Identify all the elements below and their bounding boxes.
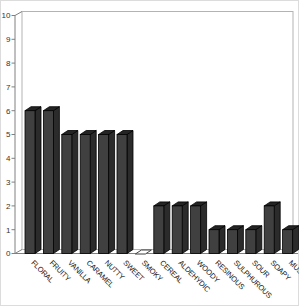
y-axis-depth-top-edge (15, 12, 22, 16)
y-tick-label: 6 (6, 107, 11, 116)
bar-front-face (43, 111, 53, 254)
bar-cereal (154, 202, 170, 254)
bar-side-face (256, 226, 262, 254)
bar-caramel (80, 131, 96, 254)
bar-soapy (264, 202, 280, 254)
bar-front-face (25, 111, 35, 254)
bar-side-face (164, 202, 170, 254)
bar-woody (191, 202, 207, 254)
bar-fruity (43, 107, 59, 254)
bar-sulphurous (227, 226, 243, 254)
bar-aldehydic (172, 202, 188, 254)
bar-side-face (219, 226, 225, 254)
y-axis-depth-bottom-edge (15, 250, 22, 254)
bar-musty (283, 226, 299, 254)
bar-side-face (127, 131, 133, 254)
bar-side-face (90, 131, 96, 254)
bar-sweet (117, 131, 133, 254)
bar-side-face (35, 107, 41, 254)
chart-frame: 012345678910FLORALFRUITYVANILLACARAMELNU… (0, 0, 299, 306)
bar-side-face (237, 226, 243, 254)
bar-front-face (227, 230, 237, 254)
bar-nutty (99, 131, 115, 254)
bar-front-face (154, 206, 164, 254)
bar-front-face (80, 135, 90, 254)
bar-sour (246, 226, 262, 254)
bar-resinous (209, 226, 225, 254)
y-tick-label: 5 (6, 130, 11, 139)
y-tick-label: 2 (6, 202, 11, 211)
bar-side-face (201, 202, 207, 254)
bar-side-face (274, 202, 280, 254)
y-tick-label: 8 (6, 59, 11, 68)
bar-front-face (117, 135, 127, 254)
y-tick-label: 4 (6, 154, 11, 163)
bar-front-face (62, 135, 72, 254)
bar-front-face (172, 206, 182, 254)
bar-front-face (209, 230, 219, 254)
odor-profile-3d-bar-chart: 012345678910FLORALFRUITYVANILLACARAMELNU… (1, 1, 299, 306)
bar-side-face (182, 202, 188, 254)
bar-vanilla (62, 131, 78, 254)
bar-side-face (109, 131, 115, 254)
y-tick-label: 1 (6, 226, 11, 235)
bar-front-face (191, 206, 201, 254)
bar-side-face (72, 131, 78, 254)
bar-side-face (293, 226, 299, 254)
y-tick-label: 9 (6, 35, 11, 44)
y-tick-label: 0 (6, 249, 11, 258)
bar-floral (25, 107, 41, 254)
bar-front-face (264, 206, 274, 254)
bar-front-face (99, 135, 109, 254)
bar-front-face (246, 230, 256, 254)
y-tick-label: 7 (6, 83, 11, 92)
bar-side-face (53, 107, 59, 254)
bar-front-face (283, 230, 293, 254)
y-tick-label: 3 (6, 178, 11, 187)
y-tick-label: 10 (2, 11, 11, 20)
